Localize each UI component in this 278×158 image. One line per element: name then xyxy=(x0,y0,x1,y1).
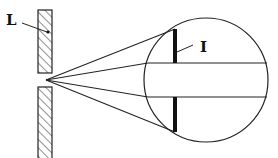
diagram-root: L I xyxy=(0,0,278,158)
label-i-leader xyxy=(177,45,193,52)
magnified-view-circle xyxy=(144,18,268,142)
wall-lower xyxy=(38,87,52,158)
label-l-dot xyxy=(46,30,49,33)
wall-upper xyxy=(38,10,52,73)
label-i: I xyxy=(200,38,207,56)
optics-diagram: L I xyxy=(0,0,278,158)
label-l: L xyxy=(6,11,17,29)
